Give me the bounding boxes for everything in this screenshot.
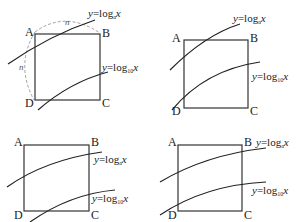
vertex-c: C [250, 104, 258, 118]
vertex-c: C [102, 96, 110, 110]
vertex-b: B [250, 31, 258, 45]
curve-log-a [7, 152, 102, 187]
vertex-a: A [14, 135, 23, 149]
equation-log-a: y=logax [232, 12, 266, 25]
vertex-b: B [244, 135, 252, 149]
panel-top-left: A B C D n n y=logax y=log10x [8, 7, 138, 110]
square-abcd [35, 34, 100, 100]
curve-log-10 [38, 72, 108, 110]
vertex-d: D [14, 208, 23, 222]
equation-log-a: y=logax [255, 136, 289, 149]
vertex-c: C [91, 208, 99, 222]
panel-bottom-right: A B C D y=logax y=log10x [160, 135, 289, 222]
arc-label-left: n [19, 62, 24, 72]
vertex-d: D [25, 96, 34, 110]
vertex-a: A [25, 25, 34, 39]
vertex-d: D [172, 104, 181, 118]
vertex-b: B [91, 135, 99, 149]
vertex-a: A [168, 135, 177, 149]
vertex-c: C [244, 208, 252, 222]
curve-log-a [8, 20, 95, 64]
equation-log-a: y=logax [93, 153, 127, 166]
vertex-d: D [168, 208, 177, 222]
equation-log-a: y=logax [87, 7, 121, 20]
square-abcd [24, 145, 89, 211]
panel-bottom-left: A B C D y=logax y=log10x [7, 135, 128, 222]
curve-log-a [160, 148, 266, 182]
panel-top-right: A B C D y=logax y=log10x [170, 12, 288, 118]
equation-log-10: y=log10x [101, 61, 138, 74]
equation-log-10: y=log10x [251, 70, 288, 83]
arc-label-top: n [65, 17, 70, 27]
square-abcd [178, 145, 242, 211]
diagram-canvas: A B C D n n y=logax y=log10x A B C D y=l… [0, 0, 304, 222]
square-abcd [184, 40, 248, 108]
vertex-a: A [172, 31, 181, 45]
equation-log-10: y=log10x [251, 184, 288, 197]
vertex-b: B [102, 26, 110, 40]
equation-log-10: y=log10x [91, 192, 128, 205]
curve-log-10 [172, 62, 260, 110]
